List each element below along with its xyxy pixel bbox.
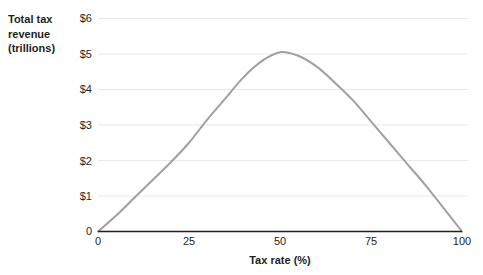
plot-area [0, 0, 483, 275]
laffer-curve-chart: Total tax revenue (trillions) $6 $5 $4 $… [0, 0, 483, 275]
laffer-curve-line [98, 52, 462, 231]
